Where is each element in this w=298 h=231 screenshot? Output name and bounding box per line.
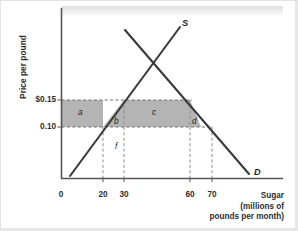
x-tick-label-0: 0 (52, 190, 70, 199)
x-tick-label-20: 20 (94, 190, 112, 199)
region-label-f: f (115, 142, 117, 151)
x-axis-title-line1: Sugar (154, 191, 284, 202)
region-label-d: d (192, 117, 197, 126)
y-axis-title: Price per pound (12, 12, 26, 122)
supply-demand-figure: Price per pound $0.15 0.10 0 20 30 60 70… (0, 0, 298, 231)
region-label-a: a (78, 108, 83, 117)
x-tick-label-30: 30 (115, 190, 133, 199)
shaded-region-c (124, 100, 190, 127)
demand-curve-label: D (254, 167, 261, 177)
x-axis-title: Sugar (millions of pounds per month) (154, 191, 284, 223)
region-label-b: b (114, 117, 119, 126)
supply-curve-label: S (182, 18, 188, 28)
region-label-c: c (152, 108, 156, 117)
y-axis-title-text: Price per pound (18, 35, 28, 99)
y-tick-label-010: 0.10 (16, 122, 56, 131)
x-axis-title-line3: pounds per month) (154, 212, 284, 223)
y-tick-label-015: $0.15 (16, 95, 56, 104)
x-axis-title-line2: (millions of (154, 202, 284, 213)
